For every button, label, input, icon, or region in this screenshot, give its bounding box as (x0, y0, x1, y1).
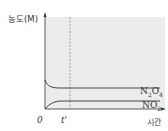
series-label-n2o4: N2O4 (140, 86, 163, 98)
series-label-no2: NO2 (142, 100, 161, 112)
y-axis-label: 농도(M) (8, 12, 38, 24)
x-tick-t-prime: t' (61, 115, 67, 125)
y-axis-arrow (44, 12, 47, 17)
x-axis-label: 시간 (147, 116, 161, 127)
x-tick-0: 0 (37, 115, 43, 125)
